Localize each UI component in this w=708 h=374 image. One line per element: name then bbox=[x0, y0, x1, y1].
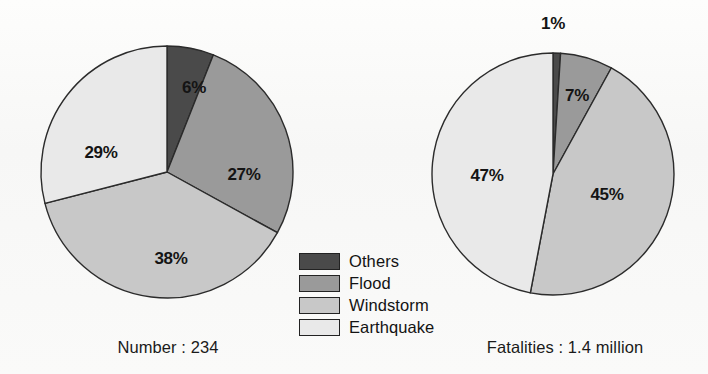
legend-swatch-others bbox=[299, 253, 340, 270]
figure-root: 6% 27% 38% 29% Number : 234 1% 7% 45% 47… bbox=[0, 0, 708, 374]
legend: Others Flood Windstorm Earthquake bbox=[299, 250, 434, 338]
left-chart-caption: Number : 234 bbox=[18, 338, 318, 357]
left-slice-label-earthquake: 29% bbox=[84, 143, 117, 162]
legend-item-flood: Flood bbox=[299, 272, 434, 294]
legend-label-windstorm: Windstorm bbox=[349, 297, 429, 314]
legend-label-others: Others bbox=[349, 253, 399, 270]
legend-item-others: Others bbox=[299, 250, 434, 272]
right-slice-label-earthquake: 47% bbox=[470, 166, 503, 185]
legend-label-earthquake: Earthquake bbox=[349, 319, 434, 336]
legend-label-flood: Flood bbox=[349, 275, 391, 292]
right-pie-slices bbox=[432, 53, 674, 295]
left-slice-label-others: 6% bbox=[182, 78, 206, 97]
right-slice-label-windstorm: 45% bbox=[590, 185, 623, 204]
legend-item-windstorm: Windstorm bbox=[299, 294, 434, 316]
legend-swatch-flood bbox=[299, 275, 340, 292]
right-pie-chart: 1% 7% 45% 47% Fatalities : 1.4 million bbox=[420, 4, 700, 360]
right-pie-svg: 1% 7% 45% 47% bbox=[420, 4, 700, 334]
right-slice-label-flood: 7% bbox=[565, 86, 589, 105]
left-slice-label-windstorm: 38% bbox=[154, 249, 187, 268]
left-pie-chart: 6% 27% 38% 29% Number : 234 bbox=[18, 20, 318, 360]
right-slice-label-others: 1% bbox=[541, 14, 565, 33]
legend-swatch-earthquake bbox=[299, 319, 340, 336]
legend-swatch-windstorm bbox=[299, 297, 340, 314]
legend-item-earthquake: Earthquake bbox=[299, 316, 434, 338]
left-slice-label-flood: 27% bbox=[227, 165, 260, 184]
right-chart-caption: Fatalities : 1.4 million bbox=[420, 338, 708, 357]
left-pie-svg: 6% 27% 38% 29% bbox=[18, 20, 318, 330]
